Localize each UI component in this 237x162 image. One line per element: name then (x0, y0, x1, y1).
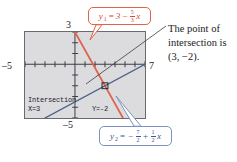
note-line-2: intersection is (168, 36, 236, 50)
axis-label-right: 7 (149, 61, 154, 71)
plot-background (25, 32, 145, 118)
note-line-1: The point of (168, 22, 236, 36)
note-line-3: (3, −2). (168, 50, 236, 64)
y2-subscript: 2 (115, 136, 118, 143)
intersection-note: The point of intersection is (3, −2). (168, 22, 236, 64)
equation-y1-expression: y1 = 3 − 5 3 x (99, 9, 141, 23)
callout-equation-y1: y1 = 3 − 5 3 x (88, 7, 151, 25)
y2-operator: + (142, 132, 149, 141)
y1-subscript: 1 (104, 16, 107, 23)
y2-variable: x (157, 132, 161, 141)
y1-operator: − (121, 12, 128, 21)
readout-y-value: Y=-2 (92, 106, 108, 113)
y1-frac-denominator: 3 (130, 16, 135, 24)
y2-equals: = (119, 132, 126, 141)
axis-label-left: –5 (2, 61, 12, 71)
y1-variable: x (136, 12, 140, 21)
readout-x-value: X=3 (28, 106, 40, 113)
axis-label-top: 3 (66, 20, 71, 30)
callout-equation-y2: y2 = − 7 2 + 1 2 x (99, 126, 172, 146)
y2-frac1-denominator: 2 (136, 136, 141, 144)
y1-constant: 3 (116, 12, 121, 21)
y2-fraction-1: 7 2 (136, 129, 141, 143)
calculator-screen (24, 31, 146, 119)
y1-lhs: y (99, 12, 103, 21)
axis-label-bottom: –5 (63, 120, 73, 130)
y2-lhs: y (110, 132, 114, 141)
equation-y2-expression: y2 = − 7 2 + 1 2 x (110, 129, 161, 143)
y1-fraction: 5 3 (130, 9, 135, 23)
readout-intersection-title: Intersection (28, 97, 76, 104)
y2-frac2-denominator: 2 (151, 136, 156, 144)
y2-sign: − (127, 132, 134, 141)
calculator-plot (25, 32, 145, 118)
y2-fraction-2: 1 2 (151, 129, 156, 143)
y1-equals: = (108, 12, 115, 21)
figure-container: 3 –5 7 –5 Intersection X=3 Y=-2 y1 = 3 −… (0, 0, 237, 162)
